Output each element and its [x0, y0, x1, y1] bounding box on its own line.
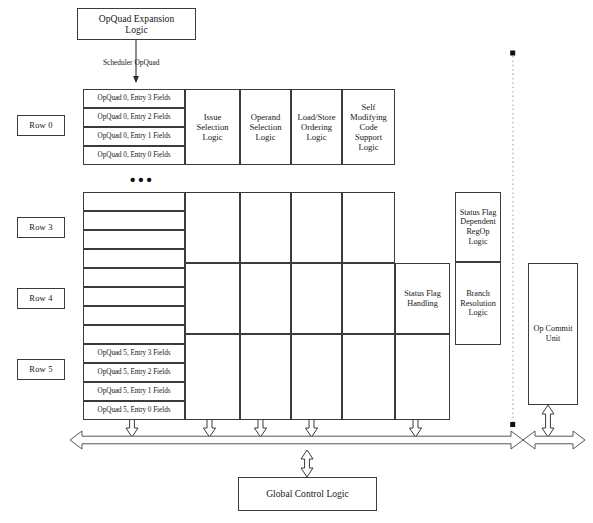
opquad-expansion-logic-block[interactable]: OpQuad Expansion Logic	[77, 8, 196, 40]
entry-cell-blank[interactable]	[83, 325, 185, 344]
entry-cell[interactable]: OpQuad 0, Entry 3 Fields	[83, 89, 185, 108]
row-label-row-3[interactable]: Row 3	[17, 217, 65, 238]
entry-cell[interactable]: OpQuad 5, Entry 3 Fields	[83, 344, 185, 363]
row-label-text: Row 5	[27, 364, 54, 374]
logic-column-segment-self-modifying-code[interactable]	[342, 192, 395, 263]
logic-block-label: Load/Store Ordering Logic	[295, 112, 337, 142]
status-flag-dependent-regop-logic-label: Status Flag Dependent RegOp Logic	[458, 208, 499, 247]
entry-label: OpQuad 5, Entry 2 Fields	[96, 368, 173, 376]
logic-block-operand-selection[interactable]: Operand Selection Logic	[240, 89, 291, 165]
entry-label: OpQuad 5, Entry 1 Fields	[96, 387, 173, 395]
entry-cell[interactable]: OpQuad 0, Entry 2 Fields	[83, 108, 185, 127]
entry-label: OpQuad 0, Entry 2 Fields	[96, 113, 173, 121]
logic-block-label: Issue Selection Logic	[195, 112, 231, 142]
logic-column-segment-self-modifying-code[interactable]	[342, 334, 395, 420]
entry-label: OpQuad 5, Entry 0 Fields	[96, 406, 173, 414]
entry-label: OpQuad 0, Entry 0 Fields	[96, 151, 173, 159]
dotted-divider	[510, 51, 515, 428]
entry-cell[interactable]: OpQuad 5, Entry 1 Fields	[83, 382, 185, 401]
rows-elided-ellipsis: •••	[130, 172, 155, 187]
row-label-text: Row 4	[27, 293, 54, 303]
entry-cell-blank[interactable]	[83, 230, 185, 249]
op-commit-unit-block[interactable]: Op Commit Unit	[528, 263, 578, 405]
logic-column-segment-load-store-ordering[interactable]	[291, 334, 342, 420]
logic-column-segment-operand-selection[interactable]	[240, 263, 291, 334]
block-diagram-canvas: OpQuad Expansion Logic Scheduler OpQuad …	[0, 0, 593, 523]
entry-cell-blank[interactable]	[83, 268, 185, 287]
logic-block-label: Self Modifying Code Support Logic	[348, 102, 389, 153]
global-control-logic-label: Global Control Logic	[264, 488, 351, 499]
branch-resolution-logic-label: Branch Resolution Logic	[458, 289, 497, 318]
status-flag-handling-label: Status Flag Handling	[402, 289, 443, 308]
global-control-logic-block[interactable]: Global Control Logic	[238, 477, 377, 511]
logic-column-segment-load-store-ordering[interactable]	[291, 192, 342, 263]
scheduler-opquad-flow-label: Scheduler OpQuad	[103, 58, 159, 67]
row-label-text: Row 0	[27, 120, 54, 130]
logic-block-load-store-ordering[interactable]: Load/Store Ordering Logic	[291, 89, 342, 165]
global-control-bus-arrow	[301, 450, 313, 477]
entry-cell[interactable]: OpQuad 5, Entry 0 Fields	[83, 401, 185, 420]
logic-column-segment-operand-selection[interactable]	[240, 334, 291, 420]
entry-cell-blank[interactable]	[83, 192, 185, 211]
logic-column-segment-load-store-ordering[interactable]	[291, 263, 342, 334]
entry-cell[interactable]: OpQuad 5, Entry 2 Fields	[83, 363, 185, 382]
entry-cell-blank[interactable]	[83, 306, 185, 325]
logic-column-segment-operand-selection[interactable]	[240, 192, 291, 263]
row-label-row-4[interactable]: Row 4	[17, 288, 65, 309]
logic-column-segment-self-modifying-code[interactable]	[342, 263, 395, 334]
logic-column-segment-issue-selection[interactable]	[185, 192, 240, 263]
op-commit-bus-arrow	[542, 405, 554, 437]
logic-column-segment-issue-selection[interactable]	[185, 334, 240, 420]
global-bus	[70, 431, 585, 449]
logic-block-issue-selection[interactable]: Issue Selection Logic	[185, 89, 240, 165]
op-commit-unit-label: Op Commit Unit	[532, 324, 575, 343]
entry-label: OpQuad 0, Entry 1 Fields	[96, 132, 173, 140]
entry-cell[interactable]: OpQuad 0, Entry 0 Fields	[83, 146, 185, 165]
entry-cell-blank[interactable]	[83, 249, 185, 268]
status-flag-handling-block[interactable]: Status Flag Handling	[395, 263, 450, 334]
row-label-row-0[interactable]: Row 0	[17, 115, 65, 136]
entry-label: OpQuad 0, Entry 3 Fields	[96, 94, 173, 102]
logic-block-self-modifying-code[interactable]: Self Modifying Code Support Logic	[342, 89, 395, 165]
row-label-text: Row 3	[27, 222, 54, 232]
entry-cell[interactable]: OpQuad 0, Entry 1 Fields	[83, 127, 185, 146]
entry-cell-blank[interactable]	[83, 211, 185, 230]
branch-resolution-logic-block[interactable]: Branch Resolution Logic	[455, 262, 501, 345]
status-flag-dependent-regop-logic-block[interactable]: Status Flag Dependent RegOp Logic	[455, 192, 501, 262]
status-flag-handling-lower-segment[interactable]	[395, 334, 450, 420]
row-label-row-5[interactable]: Row 5	[17, 359, 65, 380]
logic-block-label: Operand Selection Logic	[248, 112, 284, 142]
entry-cell-blank[interactable]	[83, 287, 185, 306]
entry-label: OpQuad 5, Entry 3 Fields	[96, 349, 173, 357]
logic-column-segment-issue-selection[interactable]	[185, 263, 240, 334]
opquad-expansion-logic-label: OpQuad Expansion Logic	[97, 13, 176, 36]
